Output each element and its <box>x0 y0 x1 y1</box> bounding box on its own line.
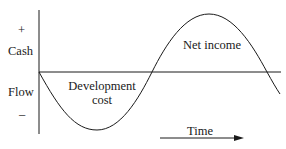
development-cost-label-line1: Development <box>62 79 142 93</box>
y-axis-label-flow: Flow <box>8 85 34 99</box>
development-cost-label-line2: cost <box>62 93 142 107</box>
arrow-head-icon <box>234 135 244 141</box>
minus-sign: – <box>19 107 25 121</box>
cash-flow-diagram <box>0 0 286 149</box>
x-axis-label-time: Time <box>187 124 213 138</box>
y-axis-label-cash: Cash <box>8 44 33 58</box>
net-income-label: Net income <box>183 38 241 52</box>
plus-sign: + <box>18 23 25 37</box>
